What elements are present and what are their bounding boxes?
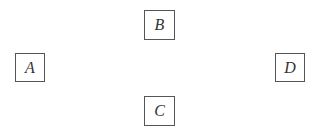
node-b-label: B [155,16,165,34]
node-c-box: C [144,96,175,126]
node-c-label: C [154,102,165,120]
node-d-box: D [275,53,305,82]
node-a-label: A [25,59,35,77]
node-b-box: B [144,10,175,40]
node-a-box: A [15,53,45,82]
node-d-label: D [284,59,296,77]
